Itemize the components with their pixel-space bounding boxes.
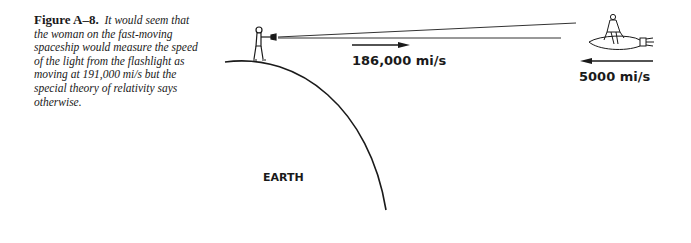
earth-label: EARTH (263, 171, 304, 184)
light-speed-label: 186,000 mi/s (352, 53, 446, 68)
ship-direction-arrow-icon (580, 58, 653, 64)
relativity-diagram: 186,000 mi/s 5000 mi/s EARTH (0, 0, 691, 243)
spaceship-with-woman-icon (589, 14, 654, 49)
earth-surface-arc (225, 61, 386, 210)
man-with-flashlight-icon (253, 27, 276, 60)
flashlight-beam (278, 23, 576, 38)
light-direction-arrow-icon (352, 42, 410, 48)
ship-speed-label: 5000 mi/s (579, 69, 650, 84)
